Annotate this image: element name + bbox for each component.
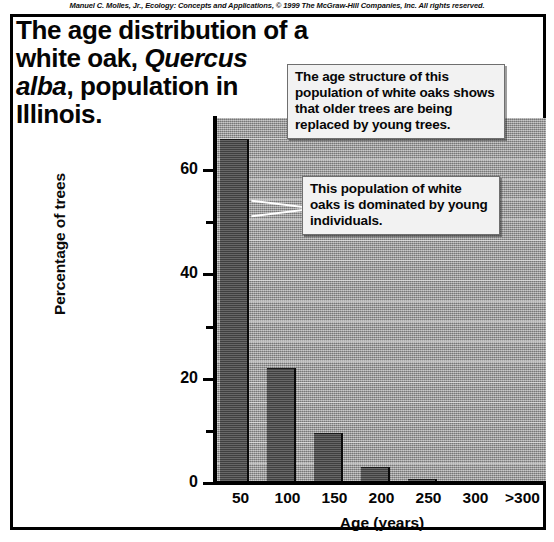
title-genus: Quercus (145, 43, 248, 73)
copyright-credit-line: Manuel C. Molles, Jr., Ecology: Concepts… (0, 1, 554, 10)
y-tick-major-40 (203, 273, 213, 276)
y-tick-label-60: 60 (153, 160, 198, 178)
y-tick-major-0 (203, 482, 213, 485)
y-tick-minor-10 (206, 430, 213, 433)
grid-line (217, 260, 546, 261)
y-tick-major-20 (203, 378, 213, 381)
annotation-callout-age-structure: The age structure of this population of … (287, 64, 505, 139)
annotation-callout-young-dominance: This population of white oaks is dominat… (302, 176, 500, 235)
y-tick-label-20: 20 (153, 369, 198, 387)
bar-100 (267, 368, 296, 483)
x-axis-title: Age (years) (217, 514, 547, 532)
title-line-4: Illinois. (16, 100, 306, 128)
page-title: The age distribution of a white oak, Que… (16, 16, 306, 128)
y-tick-label-40: 40 (153, 264, 198, 282)
title-line-2: white oak, Quercus (16, 44, 306, 72)
title-text-population: , population in (66, 71, 238, 101)
plot-area (217, 118, 546, 483)
grid-line (217, 321, 546, 322)
bar-50 (220, 139, 249, 483)
x-tick-label->300: >300 (495, 489, 551, 507)
bar-150 (314, 433, 343, 483)
y-tick-minor-50 (206, 221, 213, 224)
x-axis-line (213, 481, 546, 485)
title-epithet: alba (16, 71, 66, 101)
title-line-3: alba, population in (16, 72, 306, 100)
grid-line (217, 301, 546, 302)
y-axis-title: Percentage of trees (51, 144, 69, 344)
title-text-white-oak: white oak, (16, 43, 145, 73)
y-tick-minor-30 (206, 326, 213, 329)
grid-line (217, 159, 546, 160)
title-line-1: The age distribution of a (16, 16, 306, 44)
grid-line (217, 341, 546, 342)
grid-line (217, 361, 546, 362)
y-tick-label-0: 0 (153, 473, 198, 491)
grid-line (217, 240, 546, 241)
grid-line (217, 280, 546, 281)
y-tick-major-60 (203, 169, 213, 172)
slide-canvas: Manuel C. Molles, Jr., Ecology: Concepts… (0, 0, 554, 542)
y-axis-line (213, 116, 217, 485)
